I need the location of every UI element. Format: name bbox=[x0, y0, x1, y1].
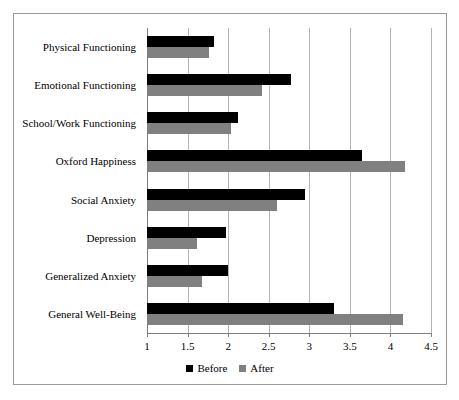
bar-before bbox=[147, 303, 334, 314]
x-tick-mark bbox=[390, 333, 391, 337]
bar-group bbox=[147, 74, 431, 96]
bar-after bbox=[147, 85, 262, 96]
legend-label: After bbox=[250, 362, 273, 374]
bar-before bbox=[147, 189, 305, 200]
legend-swatch-icon bbox=[239, 365, 246, 372]
category-label: Generalized Anxiety bbox=[45, 270, 136, 282]
x-tick-label: 4.5 bbox=[424, 339, 438, 353]
x-tick-label: 2.5 bbox=[262, 339, 276, 353]
bar-after bbox=[147, 200, 277, 211]
bar-group bbox=[147, 303, 431, 325]
chart-legend: BeforeAfter bbox=[14, 362, 446, 374]
legend-swatch-icon bbox=[186, 365, 193, 372]
x-tick-mark bbox=[147, 333, 148, 337]
category-label: School/Work Functioning bbox=[22, 117, 136, 129]
legend-item-after: After bbox=[239, 362, 273, 374]
x-tick-label: 1.5 bbox=[181, 339, 195, 353]
x-tick-label: 3.5 bbox=[343, 339, 357, 353]
legend-label: Before bbox=[197, 362, 227, 374]
bar-group bbox=[147, 227, 431, 249]
category-label: Social Anxiety bbox=[71, 194, 136, 206]
bar-before bbox=[147, 74, 291, 85]
bar-before bbox=[147, 36, 214, 47]
bar-after bbox=[147, 123, 231, 134]
x-tick-mark bbox=[228, 333, 229, 337]
bar-after bbox=[147, 276, 202, 287]
x-tick-label: 3 bbox=[307, 339, 313, 353]
bar-before bbox=[147, 265, 228, 276]
bar-before bbox=[147, 150, 362, 161]
x-tick-mark bbox=[309, 333, 310, 337]
category-label: Emotional Functioning bbox=[34, 79, 136, 91]
x-tick-label: 4 bbox=[388, 339, 394, 353]
bar-group bbox=[147, 112, 431, 134]
gridline-4-5 bbox=[431, 28, 432, 333]
bar-before bbox=[147, 112, 238, 123]
plot-area bbox=[147, 28, 431, 333]
x-axis-line bbox=[147, 333, 431, 334]
legend-item-before: Before bbox=[186, 362, 227, 374]
bar-group bbox=[147, 265, 431, 287]
category-label: Physical Functioning bbox=[43, 41, 136, 53]
x-tick-label: 2 bbox=[225, 339, 231, 353]
bar-after bbox=[147, 238, 197, 249]
chart-figure: Physical FunctioningEmotional Functionin… bbox=[13, 13, 447, 385]
category-label: Depression bbox=[87, 232, 137, 244]
bar-after bbox=[147, 47, 209, 58]
x-tick-mark bbox=[431, 333, 432, 337]
x-tick-mark bbox=[188, 333, 189, 337]
bar-group bbox=[147, 150, 431, 172]
bar-before bbox=[147, 227, 226, 238]
bar-group bbox=[147, 189, 431, 211]
bars-layer bbox=[147, 28, 431, 333]
category-label: General Well-Being bbox=[48, 308, 136, 320]
bar-after bbox=[147, 314, 403, 325]
category-label: Oxford Happiness bbox=[56, 155, 136, 167]
bar-after bbox=[147, 161, 405, 172]
bar-group bbox=[147, 36, 431, 58]
x-tick-mark bbox=[269, 333, 270, 337]
x-tick-mark bbox=[350, 333, 351, 337]
x-tick-label: 1 bbox=[144, 339, 150, 353]
category-axis-labels: Physical FunctioningEmotional Functionin… bbox=[14, 28, 142, 333]
x-axis-tick-labels: 11.522.533.544.5 bbox=[147, 339, 431, 355]
